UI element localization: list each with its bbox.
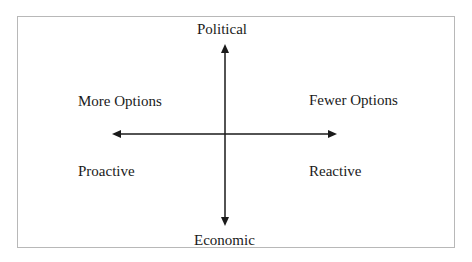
arrow-right-icon [328, 130, 337, 138]
label-economic: Economic [194, 233, 255, 248]
arrow-down-icon [221, 217, 229, 226]
label-proactive: Proactive [78, 164, 135, 179]
label-fewer-options: Fewer Options [309, 93, 398, 108]
arrow-up-icon [221, 44, 229, 53]
axes-arrows [0, 0, 472, 262]
vertical-axis [221, 44, 229, 226]
label-more-options: More Options [78, 94, 162, 109]
arrow-left-icon [112, 130, 121, 138]
label-reactive: Reactive [309, 164, 361, 179]
label-political: Political [197, 22, 247, 37]
